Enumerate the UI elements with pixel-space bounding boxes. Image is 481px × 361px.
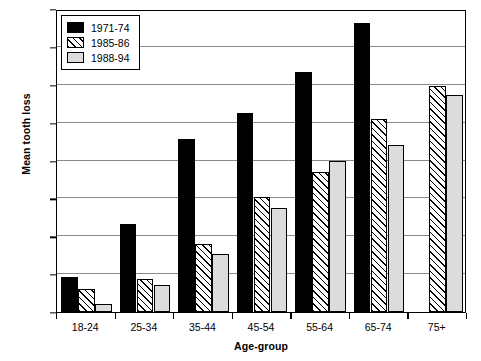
bar: [195, 244, 212, 312]
bar-group: [174, 11, 233, 312]
x-axis-category-label: 35-44: [189, 321, 216, 333]
x-axis-category-label: 75+: [428, 321, 446, 333]
bar: [137, 279, 154, 312]
bar: [446, 95, 463, 312]
bar-group: [350, 11, 409, 312]
x-axis-tick-mark: [466, 313, 467, 319]
legend-item-label: 1971-74: [91, 22, 130, 34]
legend-item-label: 1988-94: [91, 52, 130, 64]
bar: [329, 161, 346, 312]
bar-chart: Mean tooth loss Age-group 0246810121416 …: [0, 0, 481, 361]
bar-group: [291, 11, 350, 312]
legend-swatch-icon: [67, 52, 84, 63]
bar: [354, 23, 371, 312]
bar: [295, 72, 312, 312]
y-axis-title: Mean tooth loss: [20, 54, 32, 214]
bar: [388, 145, 405, 312]
x-axis-tick-mark: [407, 313, 408, 319]
bar: [95, 304, 112, 312]
bar: [271, 208, 288, 312]
bar-group: [408, 11, 467, 312]
x-axis-category-label: 25-34: [130, 321, 157, 333]
bar: [120, 224, 137, 312]
x-axis-tick-mark: [232, 313, 233, 319]
legend-item: 1985-86: [67, 35, 130, 50]
bar: [78, 289, 95, 312]
bar: [61, 277, 78, 312]
x-axis-tick-mark: [290, 313, 291, 319]
bar: [429, 86, 446, 312]
legend-swatch-icon: [67, 37, 84, 48]
x-axis-tick-mark: [349, 313, 350, 319]
legend-item-label: 1985-86: [91, 37, 130, 49]
x-axis-tick-mark: [115, 313, 116, 319]
x-axis-category-label: 18-24: [72, 321, 99, 333]
x-axis-category-label: 65-74: [365, 321, 392, 333]
bar: [371, 119, 388, 312]
bar: [178, 139, 195, 312]
legend-item: 1988-94: [67, 50, 130, 65]
bar-group: [233, 11, 292, 312]
bar: [254, 197, 271, 312]
x-axis-tick-mark: [173, 313, 174, 319]
bar: [237, 113, 254, 312]
x-axis-tick-mark: [56, 313, 57, 319]
bar: [312, 172, 329, 312]
bar: [212, 254, 229, 312]
x-axis-title: Age-group: [56, 340, 466, 352]
chart-legend: 1971-741985-861988-94: [61, 15, 140, 70]
legend-swatch-icon: [67, 22, 84, 33]
x-axis-category-label: 45-54: [248, 321, 275, 333]
bar: [154, 285, 171, 312]
x-axis-category-label: 55-64: [306, 321, 333, 333]
legend-item: 1971-74: [67, 20, 130, 35]
